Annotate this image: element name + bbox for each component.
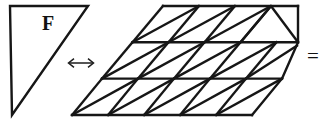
- grid-diagonal-r1-c0: [102, 42, 169, 78]
- grid-vline-r1-c0: [102, 42, 133, 78]
- grid-diagonal-r1-c3: [210, 42, 277, 78]
- grid-vline-r0-c0: [133, 6, 164, 42]
- grid-vline-r1-c1: [138, 42, 169, 78]
- grid-vline-r0-c2: [205, 6, 236, 42]
- grid-diagonal-r0-c2: [205, 6, 272, 42]
- triangle-label-F: F: [42, 12, 54, 34]
- grid-vline-r2-c5: [252, 79, 282, 115]
- grid-vline-r2-c3: [180, 79, 210, 115]
- grid-diagonal-r2-c2: [144, 79, 210, 115]
- double-arrow-horizontal-icon: [69, 59, 94, 68]
- grid-diagonal-r1-c2: [174, 42, 241, 78]
- grid-diagonal-r0-c1: [169, 6, 236, 42]
- grid-vline-r2-c0: [72, 79, 102, 115]
- figure-canvas: F =: [0, 0, 327, 131]
- grid-diagonal-r1-c1: [138, 42, 205, 78]
- grid-vline-r2-c4: [216, 79, 246, 115]
- grid-diagonal-r2-c3: [180, 79, 246, 115]
- grid-diagonal-r2-c1: [108, 79, 174, 115]
- equals-sign: =: [307, 44, 319, 68]
- grid-vline-r2-c2: [144, 79, 174, 115]
- grid-diagonal-r0-c4-reversed: [271, 6, 298, 42]
- grid-diagonal-r0-c3: [241, 6, 272, 42]
- grid-vline-r1-c3: [210, 42, 241, 78]
- grid-diagonal-r0-c0: [133, 6, 200, 42]
- grid-diagonal-r2-c0: [72, 79, 138, 115]
- grid-vline-r0-c1: [169, 6, 200, 42]
- grid-vline-r1-c2: [174, 42, 205, 78]
- grid-vline-r2-c1: [108, 79, 138, 115]
- grid-diagonal-r2-c4: [216, 79, 282, 115]
- sheared-grid-group: [72, 6, 298, 115]
- figure-root: F =: [0, 0, 327, 131]
